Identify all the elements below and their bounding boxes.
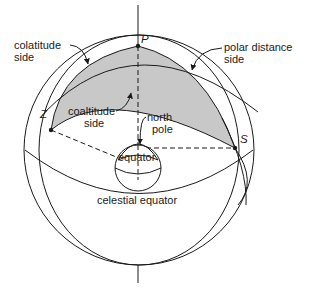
point-p-label: P	[141, 33, 149, 45]
point-p-marker	[136, 44, 140, 48]
vertical-circle-arc	[235, 148, 247, 205]
north-pole-label-line2: pole	[152, 123, 173, 135]
north-pole-arrow	[140, 117, 146, 144]
polar-distance-label-line2: side	[224, 53, 244, 65]
point-z-label: Z	[39, 108, 48, 120]
earth-equator-label: equator	[118, 151, 156, 163]
coaltitude-label-line2: side	[84, 117, 104, 129]
point-s-label: S	[240, 133, 248, 145]
colatitude-label-line1: colatitude	[14, 39, 61, 51]
coaltitude-label-line1: coaltitude	[68, 105, 115, 117]
north-pole-label-line1: north	[147, 111, 172, 123]
polar-distance-arrow	[192, 48, 222, 70]
polar-distance-label-line1: polar distance	[224, 41, 293, 53]
celestial-equator-label: celestial equator	[97, 194, 177, 206]
point-z-marker	[49, 128, 53, 132]
astronomical-triangle	[51, 46, 235, 148]
celestial-sphere-diagram: P Z S colatitude side coaltitude side po…	[0, 0, 310, 296]
point-s-marker	[233, 146, 237, 150]
colatitude-label-line2: side	[14, 51, 34, 63]
